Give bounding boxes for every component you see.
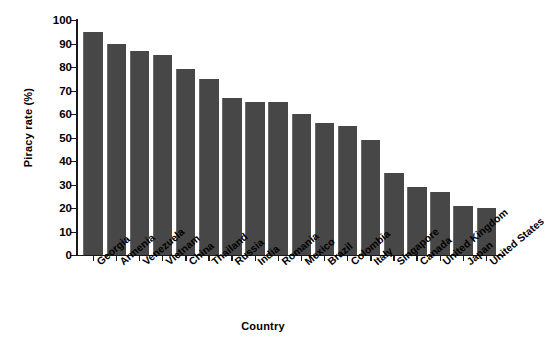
plot-area: 0102030405060708090100 — [76, 20, 505, 255]
bar — [199, 79, 219, 255]
bar — [384, 173, 404, 255]
y-axis-tick-label: 50 — [59, 132, 72, 144]
x-axis-tick-labels: GeorgiaArmeniaVenezuelaVietnamChinaThail… — [76, 258, 505, 318]
y-axis-tick-label: 80 — [59, 61, 72, 73]
x-axis-tick-mark — [486, 256, 487, 261]
y-axis-tick-label: 90 — [59, 38, 72, 50]
x-axis-tick-mark — [185, 256, 186, 261]
y-axis-tick-label: 0 — [66, 249, 72, 261]
y-axis-tick-label: 100 — [53, 14, 72, 26]
bar — [153, 55, 173, 255]
x-axis-tick-mark — [463, 256, 464, 261]
x-axis-title: Country — [0, 320, 526, 332]
bar — [83, 32, 103, 255]
x-axis-tick-mark — [93, 256, 94, 261]
bar — [130, 51, 150, 255]
bar — [338, 126, 358, 255]
bar — [107, 44, 127, 256]
x-axis-tick-mark — [162, 256, 163, 261]
y-axis-tick-label: 30 — [59, 179, 72, 191]
bar — [268, 102, 288, 255]
x-axis-tick-mark — [231, 256, 232, 261]
x-axis-tick-mark — [324, 256, 325, 261]
x-axis-tick-mark — [393, 256, 394, 261]
x-axis-tick-mark — [370, 256, 371, 261]
y-axis-tick-label: 20 — [59, 202, 72, 214]
y-axis-tick-label: 10 — [59, 226, 72, 238]
x-axis-tick-mark — [208, 256, 209, 261]
x-axis-tick-mark — [440, 256, 441, 261]
x-axis-tick-mark — [347, 256, 348, 261]
bar — [245, 102, 265, 255]
y-axis-tick-label: 40 — [59, 155, 72, 167]
x-axis-tick-mark — [416, 256, 417, 261]
x-axis-tick-mark — [301, 256, 302, 261]
y-axis-tick-label: 60 — [59, 108, 72, 120]
x-axis-tick-mark — [255, 256, 256, 261]
y-axis-title: Piracy rate (%) — [18, 0, 38, 255]
x-axis-tick-mark — [278, 256, 279, 261]
y-axis-tick-label: 70 — [59, 85, 72, 97]
x-axis-tick-mark — [116, 256, 117, 261]
x-axis-tick-mark — [139, 256, 140, 261]
